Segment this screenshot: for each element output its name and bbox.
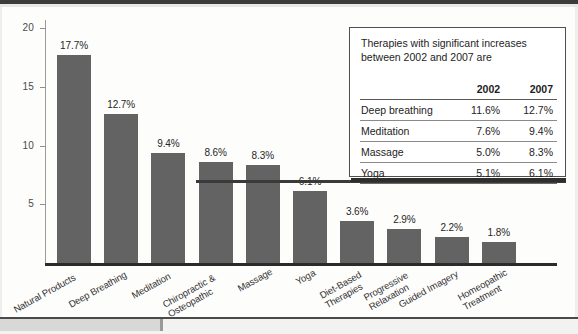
summary-table-title: Therapies with significant increases bet… — [361, 37, 557, 64]
summary-table-row: Massage5.0%8.3% — [360, 142, 557, 163]
bar-value-label: 2.9% — [377, 214, 431, 225]
scan-edge-left — [0, 7, 2, 317]
cell-2002: 7.6% — [451, 121, 504, 142]
bar-value-label: 1.8% — [472, 227, 526, 238]
bar-value-label: 9.4% — [141, 138, 195, 149]
y-axis-tick-label: 15 — [12, 81, 34, 92]
cell-2007: 8.3% — [504, 142, 557, 163]
y-axis-tick-label: 20 — [12, 22, 34, 33]
summary-table-shadow — [351, 178, 566, 182]
bar-value-label: 3.6% — [330, 206, 384, 217]
cell-2002: 5.0% — [451, 142, 504, 163]
x-axis-line — [45, 263, 557, 266]
bar-value-label: 8.6% — [189, 147, 243, 158]
y-axis-tick-label: 10 — [12, 140, 34, 151]
x-axis-category-label: Diet-Based Therapies — [318, 270, 368, 311]
y-axis-tick-label: 5 — [12, 198, 34, 209]
y-axis-tick — [40, 87, 46, 88]
bar — [104, 114, 138, 263]
col-header-therapy — [360, 79, 451, 100]
cell-2007: 9.4% — [504, 121, 557, 142]
cell-therapy: Massage — [360, 142, 451, 163]
y-axis-tick — [40, 204, 46, 205]
bar-value-label: 8.3% — [236, 150, 290, 161]
bar — [482, 242, 516, 263]
bar — [199, 162, 233, 263]
summary-table-body: Deep breathing11.6%12.7%Meditation7.6%9.… — [360, 100, 557, 184]
scan-edge-bottom-tab — [0, 319, 160, 331]
x-axis-category-label: Yoga — [294, 268, 317, 287]
y-axis-line — [45, 20, 46, 264]
bar — [340, 221, 374, 263]
bar — [387, 229, 421, 263]
bar-value-label: 2.2% — [425, 222, 479, 233]
summary-table-head: 2002 2007 — [360, 79, 557, 100]
summary-table-header-row: 2002 2007 — [360, 79, 557, 100]
cell-2007: 12.7% — [504, 100, 557, 121]
chart-page: 5101520 17.7%12.7%9.4%8.6%8.3%6.1%3.6%2.… — [0, 0, 578, 334]
bar — [435, 237, 469, 263]
bar-value-label: 12.7% — [94, 99, 148, 110]
x-axis-category-label: Deep Breathing — [67, 270, 129, 311]
x-axis-category-label: Homeopathic Treatment — [456, 268, 514, 313]
col-header-2002: 2002 — [451, 79, 504, 100]
cell-therapy: Meditation — [360, 121, 451, 142]
bar — [293, 191, 327, 263]
bar — [151, 153, 185, 263]
summary-table-row: Meditation7.6%9.4% — [360, 121, 557, 142]
summary-table: 2002 2007 Deep breathing11.6%12.7%Medita… — [360, 79, 557, 184]
scan-edge-bottom-tick — [160, 319, 163, 331]
x-axis-category-label: Massage — [236, 267, 274, 295]
scan-edge-top-light — [0, 4, 578, 7]
cell-2002: 11.6% — [451, 100, 504, 121]
bar-value-label: 17.7% — [47, 40, 101, 51]
x-axis-category-label: Natural Products — [12, 272, 78, 315]
summary-table-row: Deep breathing11.6%12.7% — [360, 100, 557, 121]
bar — [57, 55, 91, 263]
cell-therapy: Deep breathing — [360, 100, 451, 121]
y-axis-tick — [40, 146, 46, 147]
col-header-2007: 2007 — [504, 79, 557, 100]
y-axis-tick — [40, 28, 46, 29]
summary-table-panel: Therapies with significant increases bet… — [349, 27, 566, 177]
